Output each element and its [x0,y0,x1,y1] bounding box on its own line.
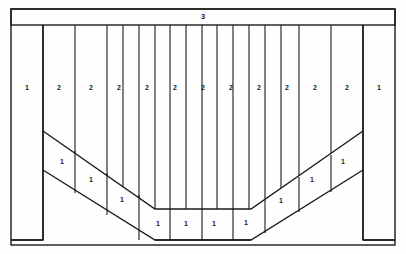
band-outer-edge [43,131,363,209]
band-panel-label-1: 1 [89,176,93,183]
right-leg [363,25,395,240]
upper-column-label-11: 2 [345,84,349,91]
upper-column-label-6: 2 [201,84,205,91]
band-panel-label-3: 1 [156,220,160,227]
band-panel-label-4: 1 [184,220,188,227]
band-panel-label-2: 1 [120,196,124,203]
upper-column-label-2: 2 [89,84,93,91]
upper-column-label-1: 2 [57,84,61,91]
band-divider-lines [75,151,331,240]
band-panel-label-9: 1 [341,158,345,165]
diagram-canvas: 3 1222222222221 1111111111 [0,0,406,254]
upper-column-labels: 1222222222221 [25,84,381,91]
band-panel-label-7: 1 [279,197,283,204]
upper-column-label-8: 2 [257,84,261,91]
upper-column-label-7: 2 [229,84,233,91]
column-separator-lines [43,25,363,240]
upper-column-label-0: 1 [25,84,29,91]
band-panel-label-5: 1 [212,220,216,227]
top-beam-label: 3 [201,12,205,21]
band-panel-label-6: 1 [244,219,248,226]
truss-cross-section-diagram: 3 1222222222221 1111111111 [0,0,406,254]
upper-column-label-4: 2 [145,84,149,91]
upper-column-label-3: 2 [117,84,121,91]
band-panel-label-0: 1 [60,158,64,165]
upper-column-label-9: 2 [285,84,289,91]
upper-column-label-12: 1 [377,84,381,91]
left-leg [11,25,43,240]
band-panel-label-8: 1 [310,176,314,183]
upper-column-label-10: 2 [313,84,317,91]
upper-column-label-5: 2 [173,84,177,91]
